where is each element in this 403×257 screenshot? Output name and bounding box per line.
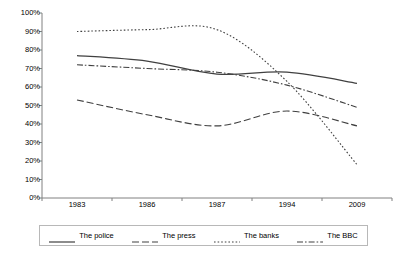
x-axis-tick-label: 1983 [69, 200, 86, 209]
x-axis-tick-label: 1987 [209, 200, 226, 209]
y-axis-tick-label: 10% [2, 176, 40, 184]
legend-label: The press [162, 231, 195, 240]
series-line-the-bbc [77, 65, 357, 108]
plot-svg [0, 0, 403, 215]
plot-area: 0%10%20%30%40%50%60%70%80%90%100% [0, 0, 403, 215]
y-axis-tick-label: 60% [2, 83, 40, 91]
x-axis-tick-label: 1994 [279, 200, 296, 209]
y-axis-tick-label: 100% [2, 9, 40, 17]
series-line-the-banks [77, 26, 357, 165]
line-chart: 0%10%20%30%40%50%60%70%80%90%100% 198319… [0, 0, 403, 257]
y-axis-tick-label: 20% [2, 157, 40, 165]
x-axis-tick-label: 2009 [349, 200, 366, 209]
y-axis-tick-label: 50% [2, 102, 40, 110]
legend-label: The banks [244, 231, 279, 240]
legend-item-the-press[interactable]: The press [132, 231, 195, 240]
y-axis-labels: 0%10%20%30%40%50%60%70%80%90%100% [0, 0, 40, 215]
dashdot-line-swatch [297, 232, 323, 240]
y-axis-tick-label: 30% [2, 139, 40, 147]
legend-item-the-police[interactable]: The police [49, 231, 114, 240]
dotted-line-swatch [214, 232, 240, 240]
legend-item-the-banks[interactable]: The banks [214, 231, 279, 240]
legend-label: The police [79, 231, 114, 240]
dashed-line-swatch [132, 232, 158, 240]
y-axis-tick-label: 90% [2, 28, 40, 36]
x-axis-labels: 19831986198719942009 [42, 200, 392, 214]
y-axis-tick-label: 80% [2, 46, 40, 54]
solid-line-swatch [49, 232, 75, 240]
x-axis-tick-label: 1986 [139, 200, 156, 209]
y-axis-tick-label: 70% [2, 65, 40, 73]
y-axis-tick-label: 0% [2, 194, 40, 202]
y-axis-tick-label: 40% [2, 120, 40, 128]
series-lines [77, 26, 357, 165]
series-line-the-police [77, 56, 357, 84]
chart-legend: The policeThe pressThe banksThe BBC [39, 225, 368, 246]
legend-label: The BBC [327, 231, 357, 240]
legend-item-the-bbc[interactable]: The BBC [297, 231, 357, 240]
